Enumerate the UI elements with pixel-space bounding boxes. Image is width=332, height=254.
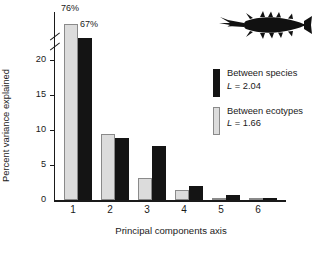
x-tick-label-4: 4: [169, 204, 199, 215]
bar-species-pc5: [226, 195, 240, 200]
legend-swatch-ecotypes: [213, 107, 220, 135]
legend-label-species: Between species: [227, 68, 328, 80]
y-tick-label-0: 0: [20, 195, 46, 204]
annotation-76-percent: 76%: [61, 3, 79, 13]
x-tick-label-6: 6: [243, 204, 273, 215]
bar-species-pc3: [152, 146, 166, 200]
legend-sublabel-species: L = 2.04: [227, 80, 328, 92]
y-tick-label-10: 10: [20, 125, 46, 134]
x-tick-label-5: 5: [206, 204, 236, 215]
y-tick-20: [50, 60, 54, 61]
bar-species-pc1: [78, 38, 92, 200]
legend-l-value-ecotypes: = 1.66: [235, 118, 261, 128]
y-axis-label-wrap: Percent variance explained: [0, 52, 12, 202]
y-axis-label: Percent variance explained: [0, 51, 11, 201]
y-tick-label-20: 20: [20, 55, 46, 64]
annotation-67-percent: 67%: [80, 19, 98, 29]
legend-l-value-species: = 2.04: [235, 81, 261, 91]
legend-item-species: Between species L = 2.04: [213, 68, 328, 92]
bar-ecotypes-pc5: [212, 198, 226, 201]
y-tick-label-5: 5: [20, 160, 46, 169]
legend-swatch-species: [213, 69, 220, 97]
legend-label-ecotypes: Between ecotypes: [227, 106, 328, 118]
legend: Between species L = 2.04 Between ecotype…: [213, 68, 328, 143]
legend-sublabel-ecotypes: L = 1.66: [227, 117, 328, 129]
bar-ecotypes-pc6: [249, 198, 263, 200]
legend-l-symbol-ecotypes: L: [227, 118, 232, 128]
y-tick-5: [50, 165, 54, 166]
x-tick-label-3: 3: [132, 204, 162, 215]
x-axis-line: [54, 200, 286, 202]
bar-ecotypes-pc3: [138, 178, 152, 200]
y-tick-15: [50, 95, 54, 96]
bar-chart: 20 15 10 5 0 Percent variance explained …: [0, 0, 332, 254]
legend-item-ecotypes: Between ecotypes L = 1.66: [213, 106, 328, 130]
x-tick-label-1: 1: [58, 204, 88, 215]
bar-ecotypes-pc4: [175, 190, 189, 200]
x-axis-label: Principal components axis: [55, 225, 287, 236]
y-tick-10: [50, 130, 54, 131]
bar-species-pc4: [189, 186, 203, 200]
bar-ecotypes-pc2: [101, 134, 115, 200]
bar-species-pc2: [115, 138, 129, 200]
x-tick-label-2: 2: [95, 204, 125, 215]
bar-species-pc6: [263, 198, 277, 201]
legend-l-symbol-species: L: [227, 81, 232, 91]
y-tick-label-15: 15: [20, 90, 46, 99]
bar-ecotypes-pc1: [64, 24, 78, 200]
